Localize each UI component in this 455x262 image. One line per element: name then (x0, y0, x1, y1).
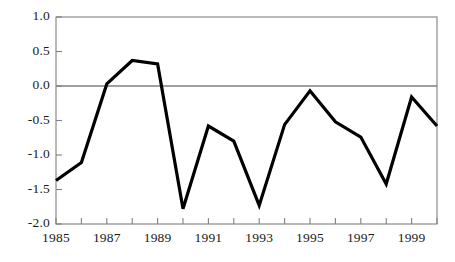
x-tick-label-1999: 1999 (387, 230, 437, 246)
x-tick-label-1989: 1989 (133, 230, 183, 246)
x-tick-label-1987: 1987 (82, 230, 132, 246)
y-tick-label-1: 0.5 (4, 43, 50, 59)
y-tick-label-2: 0.0 (4, 77, 50, 93)
x-tick-label-1995: 1995 (285, 230, 335, 246)
x-tick-label-1985: 1985 (31, 230, 81, 246)
y-tick-label-3: -0.5 (4, 112, 50, 128)
y-tick-label-0: 1.0 (4, 8, 50, 24)
plot-frame-rect (56, 17, 437, 224)
x-tick-label-1991: 1991 (183, 230, 233, 246)
y-tick-label-4: -1.0 (4, 146, 50, 162)
line-chart: 1.00.50.0-0.5-1.0-1.5-2.0 19851987198919… (0, 0, 455, 262)
y-tick-label-5: -1.5 (4, 181, 50, 197)
x-tick-label-1997: 1997 (336, 230, 386, 246)
chart-canvas (0, 0, 455, 262)
x-tick-label-1993: 1993 (234, 230, 284, 246)
plot-frame (56, 17, 437, 224)
y-tick-label-6: -2.0 (4, 215, 50, 231)
